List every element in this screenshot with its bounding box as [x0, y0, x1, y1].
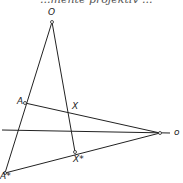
point-o [159, 132, 162, 135]
point-O [51, 21, 54, 24]
label-o: o [174, 128, 180, 137]
label-A: A [17, 97, 23, 106]
line-Astar-o [5, 133, 160, 173]
label-A-star: A* [0, 172, 11, 181]
label-X: X [72, 102, 78, 111]
label-O: O [48, 8, 55, 17]
axis-line [2, 130, 170, 133]
line-A-o [25, 103, 160, 133]
line-O-Xstar [52, 22, 75, 152]
line-O-Astar [5, 22, 52, 173]
point-A [24, 102, 27, 105]
projective-diagram [0, 0, 183, 183]
label-X-star: X* [73, 155, 84, 164]
